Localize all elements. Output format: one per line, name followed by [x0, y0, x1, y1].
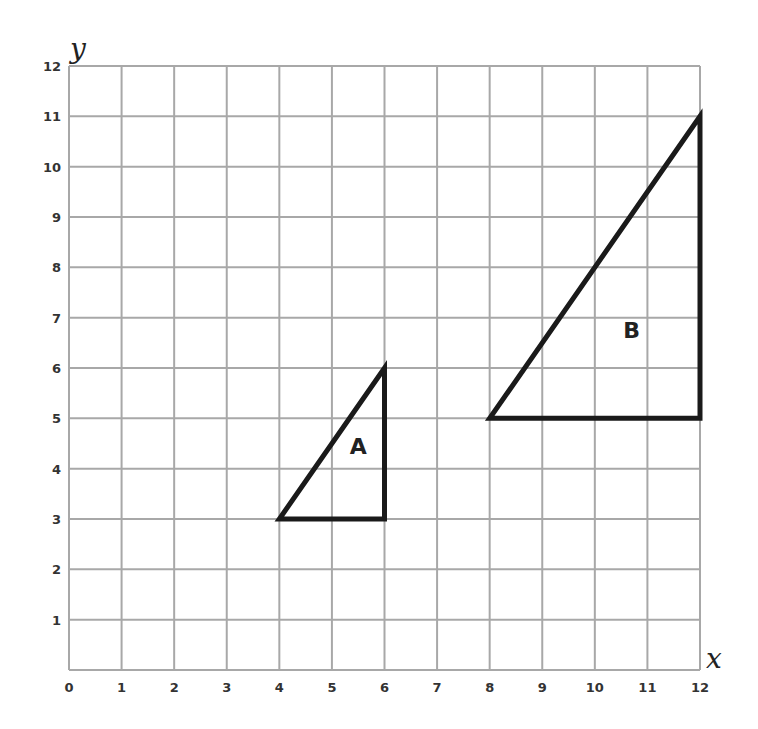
x-tick-label: 5 [327, 680, 336, 695]
x-tick-label: 1 [117, 680, 126, 695]
triangle-a-label: A [350, 434, 367, 459]
coordinate-grid: 0123456789101112 123456789101112 AB y x [0, 0, 758, 729]
y-tick-label: 2 [52, 562, 61, 577]
x-tick-label: 8 [485, 680, 494, 695]
x-tick-label: 3 [222, 680, 231, 695]
x-tick-label: 11 [638, 680, 656, 695]
x-tick-label: 0 [64, 680, 73, 695]
y-axis-label: y [68, 32, 87, 65]
y-tick-label: 4 [52, 462, 61, 477]
x-axis-label: x [706, 642, 722, 675]
x-tick-label: 2 [170, 680, 179, 695]
y-tick-label: 7 [52, 311, 61, 326]
x-tick-label: 9 [538, 680, 547, 695]
y-tick-label: 5 [52, 411, 61, 426]
y-tick-label: 6 [52, 361, 61, 376]
x-tick-label: 12 [691, 680, 709, 695]
x-tick-label: 6 [380, 680, 389, 695]
y-axis-tick-labels: 123456789101112 [43, 59, 61, 628]
y-tick-label: 10 [43, 160, 61, 175]
y-tick-label: 8 [52, 260, 61, 275]
y-tick-label: 1 [52, 613, 61, 628]
y-tick-label: 9 [52, 210, 61, 225]
x-tick-label: 4 [275, 680, 284, 695]
y-tick-label: 12 [43, 59, 61, 74]
x-tick-label: 7 [433, 680, 442, 695]
x-axis-tick-labels: 0123456789101112 [64, 680, 709, 695]
triangle-b-label: B [623, 318, 640, 343]
y-tick-label: 11 [43, 109, 61, 124]
y-tick-label: 3 [52, 512, 61, 527]
x-tick-label: 10 [586, 680, 604, 695]
